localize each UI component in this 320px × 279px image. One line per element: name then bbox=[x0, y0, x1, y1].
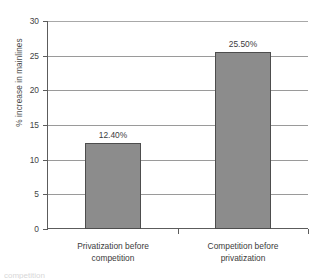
bar-value-label: 12.40% bbox=[99, 130, 127, 140]
y-axis-label: % increase in mainlines bbox=[15, 8, 24, 158]
gridline-30 bbox=[48, 21, 308, 22]
y-tick-0 bbox=[43, 229, 48, 230]
x-category-label: Competition beforeprivatization bbox=[168, 241, 318, 264]
clipped-caption: competition bbox=[4, 271, 304, 279]
plot-area: 05101520253012.40%25.50% bbox=[48, 21, 308, 229]
y-tick-5 bbox=[43, 194, 48, 195]
y-tick-30 bbox=[43, 21, 48, 22]
y-tick-label-0: 0 bbox=[34, 224, 39, 234]
x-category-label-line: competition bbox=[38, 253, 188, 265]
y-tick-20 bbox=[43, 90, 48, 91]
y-tick-label-20: 20 bbox=[30, 85, 39, 95]
y-tick-25 bbox=[43, 56, 48, 57]
y-tick-label-10: 10 bbox=[30, 155, 39, 165]
bar bbox=[215, 52, 271, 229]
y-tick-10 bbox=[43, 160, 48, 161]
y-tick-15 bbox=[43, 125, 48, 126]
x-tick bbox=[178, 229, 179, 234]
y-tick-label-25: 25 bbox=[30, 51, 39, 61]
bar bbox=[85, 143, 141, 229]
x-category-label-line: Competition before bbox=[168, 241, 318, 253]
x-tick bbox=[308, 229, 309, 234]
y-tick-label-5: 5 bbox=[34, 189, 39, 199]
y-tick-label-30: 30 bbox=[30, 16, 39, 26]
x-category-label: Privatization beforecompetition bbox=[38, 241, 188, 264]
bar-chart: % increase in mainlines 05101520253012.4… bbox=[0, 0, 320, 279]
y-tick-label-15: 15 bbox=[30, 120, 39, 130]
x-category-label-line: privatization bbox=[168, 253, 318, 265]
bar-value-label: 25.50% bbox=[229, 39, 257, 49]
x-category-label-line: Privatization before bbox=[38, 241, 188, 253]
